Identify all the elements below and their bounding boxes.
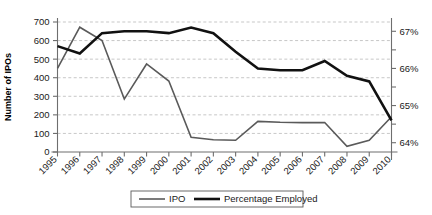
legend-label-ipo: IPO [169, 193, 185, 204]
x-axis-tick-label: 2006 [281, 154, 304, 177]
x-axis-tick-label: 1997 [81, 154, 104, 177]
y-axis-right-tick-label: 64% [400, 137, 420, 148]
x-axis-tick-label: 2002 [192, 154, 215, 177]
x-axis-tick-label: 2003 [214, 154, 237, 177]
x-axis-tick-label: 2000 [148, 154, 171, 177]
y-axis-left-tick-label: 200 [34, 109, 50, 120]
x-axis-tick-label: 2010 [370, 154, 393, 177]
x-axis-tick-label: 2009 [348, 154, 371, 177]
ipo-employment-line-chart: 010020030040050060070064%65%66%67%199519… [0, 0, 432, 215]
legend-label-percentage-employed: Percentage Employed [224, 193, 317, 204]
y-axis-left-tick-label: 300 [34, 91, 50, 102]
x-axis-tick-label: 2004 [237, 154, 260, 177]
x-axis-tick-label: 2008 [326, 154, 349, 177]
chart-canvas: 010020030040050060070064%65%66%67%199519… [0, 0, 432, 215]
x-axis-tick-label: 2005 [259, 154, 282, 177]
x-axis-tick-label: 2007 [303, 154, 326, 177]
y-axis-left-tick-label: 600 [34, 35, 50, 46]
x-axis-tick-label: 1995 [36, 154, 59, 177]
series-line-percentage-employed [58, 28, 392, 121]
y-axis-right-tick-label: 66% [400, 63, 420, 74]
x-axis-tick-label: 2001 [170, 154, 193, 177]
y-axis-left-tick-label: 100 [34, 128, 50, 139]
y-axis-left-tick-label: 400 [34, 72, 50, 83]
y-axis-left-tick-label: 500 [34, 54, 50, 65]
x-axis-tick-label: 1998 [103, 154, 126, 177]
y-axis-right-tick-label: 67% [400, 26, 420, 37]
series-line-ipo [58, 27, 392, 146]
x-axis-tick-label: 1999 [125, 154, 148, 177]
y-axis-left-title: Number of IPOs [3, 53, 13, 121]
x-axis-tick-label: 1996 [58, 154, 81, 177]
y-axis-left-tick-label: 700 [34, 16, 50, 27]
y-axis-right-tick-label: 65% [400, 100, 420, 111]
